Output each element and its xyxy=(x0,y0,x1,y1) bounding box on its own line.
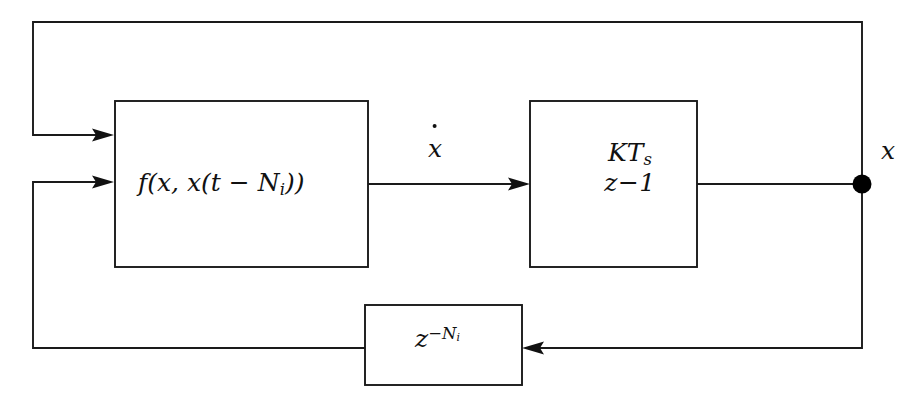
f-label-n: N xyxy=(258,168,280,197)
block-delay-label: z−Ni xyxy=(415,325,460,352)
delay-exponent-n: N xyxy=(442,324,456,343)
f-label-minus: − xyxy=(221,168,258,197)
output-junction-dot xyxy=(853,175,872,194)
f-label-tail: )) xyxy=(285,168,305,197)
integrator-numerator: KT xyxy=(608,138,643,167)
integrator-numerator-subscript: s xyxy=(643,150,651,169)
integrator-denominator: z−1 xyxy=(570,170,690,196)
x-dot-accent xyxy=(433,124,437,128)
delay-exponent-sign: − xyxy=(428,324,442,343)
block-diagram: f(x, x(t − Ni)) KTsz−1 z−Ni x x xyxy=(0,0,918,410)
block-nonlinear-function-label: f(x, x(t − Ni)) xyxy=(138,170,304,198)
f-label-main: f(x, x(t xyxy=(138,168,221,197)
wire-f-to-integrator xyxy=(368,178,530,191)
signal-label-x-dot: x xyxy=(428,136,442,162)
delay-exponent: −Ni xyxy=(428,324,460,343)
block-integrator-label: KTsz−1 xyxy=(570,140,690,196)
x-dot-base: x xyxy=(428,134,442,163)
delay-exponent-subscript: i xyxy=(456,331,459,344)
signal-label-x-output: x xyxy=(881,138,895,164)
x-dot-glyph: x xyxy=(428,134,442,163)
delay-base: z xyxy=(415,324,428,353)
